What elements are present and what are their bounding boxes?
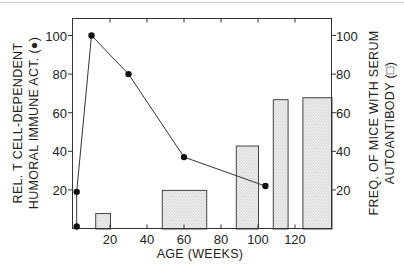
right-y-tick-label: 100	[336, 29, 358, 44]
data-point-marker	[74, 189, 80, 195]
left-y-tick-label: 60	[53, 106, 67, 121]
data-point-marker	[262, 183, 268, 189]
right-y-tick-labels: 20406080100	[336, 29, 358, 198]
x-tick-label: 60	[177, 232, 191, 247]
x-tick-label: 80	[214, 232, 228, 247]
x-tick-label: 100	[247, 232, 269, 247]
left-y-axis-label: REL. T CELL-DEPENDENT HUMORAL IMMUNE ACT…	[11, 37, 41, 209]
data-point-marker	[74, 223, 80, 229]
x-axis-label: AGE (WEEKS)	[157, 247, 244, 261]
chart: 20406080100120 20406080100 20406080100 A…	[0, 0, 404, 273]
autoantibody-bar	[96, 214, 111, 229]
data-point-marker	[181, 154, 187, 160]
data-point-marker	[88, 32, 94, 38]
right-y-tick-label: 40	[336, 144, 350, 159]
left-y-tick-label: 100	[45, 29, 67, 44]
left-y-tick-labels: 20406080100	[45, 29, 67, 198]
x-tick-labels: 20406080100120	[103, 232, 306, 247]
left-y-label-line2: HUMORAL IMMUNE ACT. (●)	[27, 37, 41, 209]
left-y-tick-label: 80	[53, 67, 67, 82]
left-y-tick-label: 40	[53, 144, 67, 159]
data-point-marker	[125, 71, 131, 77]
right-y-axis-label: FREQ. OF MICE WITH SERUM AUTOANTIBODY (□…	[367, 31, 397, 216]
right-y-tick-label: 20	[336, 183, 350, 198]
left-y-label-line1: REL. T CELL-DEPENDENT	[11, 43, 25, 204]
autoantibody-bar	[273, 100, 288, 229]
right-y-label-line1: FREQ. OF MICE WITH SERUM	[367, 31, 381, 216]
autoantibody-bar	[236, 146, 258, 229]
autoantibody-bar	[162, 190, 206, 229]
right-y-tick-label: 80	[336, 67, 350, 82]
x-tick-label: 20	[103, 232, 117, 247]
autoantibody-bar	[303, 98, 332, 229]
x-tick-label: 40	[140, 232, 154, 247]
right-y-tick-label: 60	[336, 106, 350, 121]
autoantibody-bars	[96, 98, 332, 229]
left-y-tick-label: 20	[53, 183, 67, 198]
right-y-label-line2: AUTOANTIBODY (□)	[383, 62, 397, 184]
x-tick-label: 120	[284, 232, 306, 247]
